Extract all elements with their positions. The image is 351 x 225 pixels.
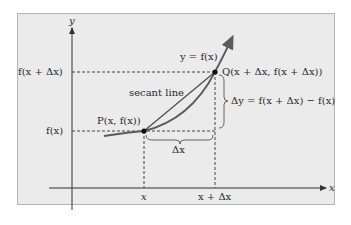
- delta-x-label: Δx: [172, 144, 185, 155]
- point-p: [141, 128, 146, 133]
- delta-x-brace: [146, 135, 213, 144]
- secant-label: secant line: [129, 87, 184, 98]
- point-q: [212, 69, 217, 74]
- point-p-label: P(x, f(x)): [97, 115, 141, 126]
- curve-label: y = f(x): [179, 51, 218, 62]
- x-axis-label: x: [329, 182, 335, 193]
- delta-y-brace: [219, 75, 228, 128]
- x-tick-x: x: [141, 191, 147, 202]
- y-tick-fx: f(x): [46, 125, 63, 136]
- secant-line: [144, 72, 215, 131]
- secant-diagram: y x f(x + Δx) f(x) x x + Δx y = f(x) sec…: [0, 0, 351, 225]
- y-tick-fxdx: f(x + Δx): [18, 66, 63, 77]
- point-q-label: Q(x + Δx, f(x + Δx)): [222, 66, 322, 77]
- delta-y-label: Δy = f(x + Δx) − f(x): [231, 95, 335, 106]
- y-axis-label: y: [68, 15, 75, 26]
- x-tick-xdx: x + Δx: [198, 191, 232, 202]
